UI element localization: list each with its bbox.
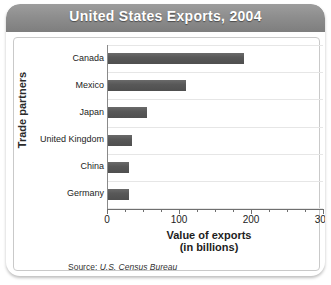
x-axis-tick-label: 100 xyxy=(159,214,199,225)
x-axis-minor-tick xyxy=(287,209,288,212)
gridline xyxy=(107,99,323,100)
x-axis-tick-label: 200 xyxy=(231,214,271,225)
x-axis-minor-tick xyxy=(215,209,216,212)
bar xyxy=(107,162,129,173)
y-axis-tick-label: Canada xyxy=(8,53,104,63)
bar xyxy=(107,80,186,91)
source-label: Source: xyxy=(68,262,97,272)
x-axis-minor-tick xyxy=(269,209,270,212)
y-axis-tick-label: United Kingdom xyxy=(8,134,104,144)
bar xyxy=(107,53,244,64)
gridline xyxy=(107,45,323,46)
gridline xyxy=(107,127,323,128)
x-axis-minor-tick xyxy=(161,209,162,212)
x-axis-title: Value of exports (in billions) xyxy=(94,229,324,253)
x-axis-title-line1: Value of exports xyxy=(94,229,324,241)
gridline xyxy=(107,181,323,182)
page-title: United States Exports, 2004 xyxy=(6,8,325,24)
bar xyxy=(107,135,132,146)
x-axis-minor-tick xyxy=(125,209,126,212)
x-axis-tick-label: 0 xyxy=(87,214,127,225)
x-axis-tick-label: 300 xyxy=(303,214,325,225)
plot-area xyxy=(107,45,323,208)
x-axis-title-line2: (in billions) xyxy=(94,241,324,253)
y-axis-tick-label: Germany xyxy=(8,188,104,198)
y-axis-tick-label: Mexico xyxy=(8,80,104,90)
y-axis-tick-label: Japan xyxy=(8,107,104,117)
gridline xyxy=(107,154,323,155)
x-axis-minor-tick xyxy=(143,209,144,212)
x-axis-minor-tick xyxy=(305,209,306,212)
y-axis-line xyxy=(107,45,108,209)
y-axis-tick-labels: CanadaMexicoJapanUnited KingdomChinaGerm… xyxy=(6,45,104,208)
source-note: Source: U.S. Census Bureau xyxy=(68,262,177,272)
y-axis-tick-label: China xyxy=(8,161,104,171)
bar xyxy=(107,189,129,200)
bar xyxy=(107,107,147,118)
gridline xyxy=(107,72,323,73)
x-axis-minor-tick xyxy=(233,209,234,212)
source-value: U.S. Census Bureau xyxy=(100,262,177,272)
title-banner: United States Exports, 2004 xyxy=(6,4,325,32)
chart-figure: United States Exports, 2004 Trade partne… xyxy=(6,4,325,276)
x-axis-minor-tick xyxy=(197,209,198,212)
